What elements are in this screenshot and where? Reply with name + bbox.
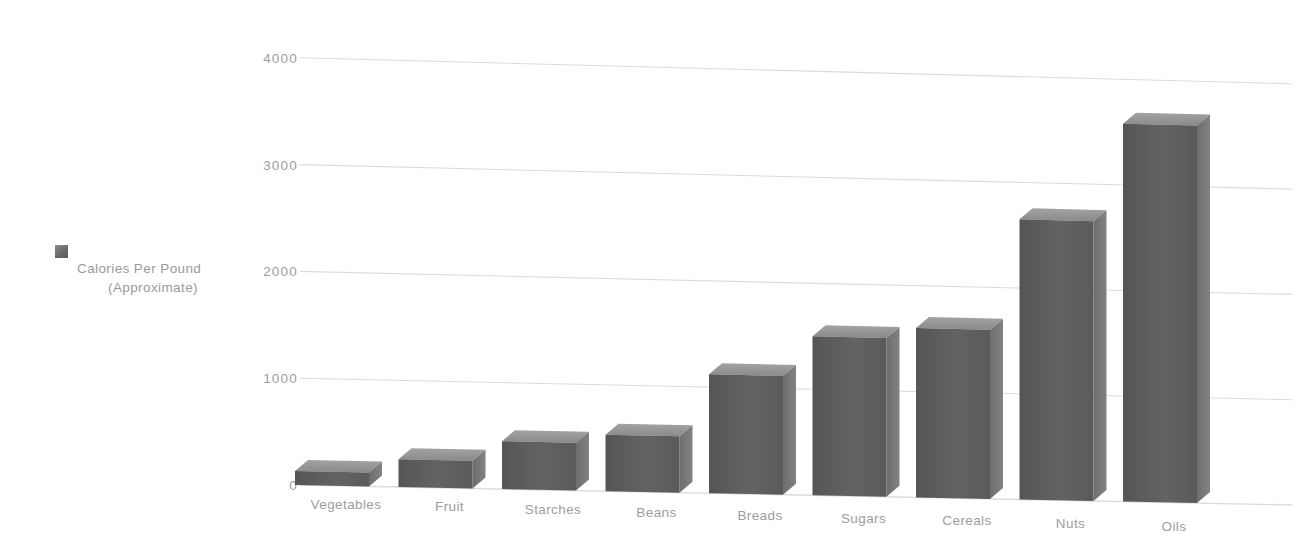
bar-side-face	[990, 319, 1003, 499]
legend-label-line2: (Approximate)	[77, 278, 229, 297]
bar-beans	[606, 424, 693, 493]
bars	[295, 113, 1210, 503]
bar-oils	[1123, 113, 1210, 503]
bar-front-face	[813, 336, 887, 497]
bar-starches	[502, 430, 589, 490]
bar-front-face	[709, 374, 783, 494]
bar-front-face	[295, 471, 369, 486]
x-axis-tick-label: Nuts	[1056, 516, 1085, 531]
bar-side-face	[887, 327, 900, 497]
legend-label: Calories Per Pound (Approximate)	[77, 240, 229, 316]
legend-swatch-icon	[55, 245, 68, 258]
x-axis-tick-label: Breads	[737, 508, 782, 523]
bar-top-face	[1123, 113, 1210, 126]
x-axis-tick-label: Oils	[1162, 519, 1187, 534]
bar-top-face	[606, 424, 693, 437]
bar-front-face	[1123, 124, 1197, 503]
bar-top-face	[399, 448, 486, 461]
bar-side-face	[783, 365, 796, 495]
bar-front-face	[399, 459, 473, 488]
bar-top-face	[502, 430, 589, 443]
plot-area: 40003000200010000 VegetablesFruitStarche…	[252, 0, 1300, 549]
x-axis-tick-label: Cereals	[942, 513, 991, 528]
bar-cereals	[916, 317, 1003, 499]
bar-top-face	[709, 363, 796, 376]
bar-top-face	[295, 460, 382, 473]
chart-legend: Calories Per Pound (Approximate)	[55, 240, 265, 316]
bar-top-face	[916, 317, 1003, 330]
legend-label-line1: Calories Per Pound	[77, 261, 201, 276]
gridline	[300, 58, 1292, 84]
x-axis-tick-label: Starches	[525, 502, 581, 517]
bar-top-face	[1020, 208, 1107, 221]
bar-side-face	[1094, 210, 1107, 501]
x-axis-tick-label: Beans	[636, 505, 676, 520]
bar-chart: Calories Per Pound (Approximate) 4000300…	[0, 0, 1300, 549]
x-axis-tick-label: Fruit	[435, 499, 464, 514]
bar-side-face	[680, 425, 693, 492]
bar-front-face	[606, 435, 680, 493]
bar-breads	[709, 363, 796, 494]
x-axis-tick-label: Sugars	[841, 511, 886, 526]
bar-front-face	[916, 328, 990, 499]
chart-canvas	[252, 0, 1300, 549]
bar-sugars	[813, 325, 900, 497]
bar-front-face	[502, 441, 576, 490]
x-axis-tick-label: Vegetables	[311, 497, 382, 512]
bar-vegetables	[295, 460, 382, 486]
bar-front-face	[1020, 219, 1094, 501]
bar-top-face	[813, 325, 900, 338]
bar-nuts	[1020, 208, 1107, 501]
bar-side-face	[1197, 115, 1210, 503]
bar-fruit	[399, 448, 486, 488]
